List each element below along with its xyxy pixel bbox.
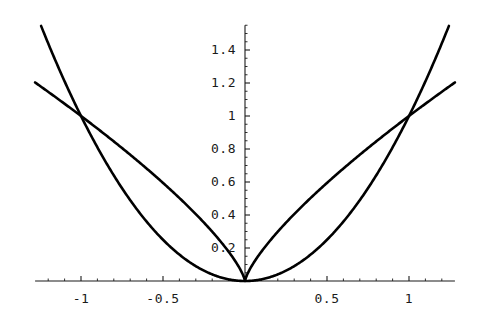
x-axis-tick-label: 0.5 <box>287 292 367 305</box>
axes-group <box>35 25 455 281</box>
y-axis-tick-label: 0.8 <box>211 142 236 155</box>
y-axis-tick-label: 1 <box>228 109 236 122</box>
y-axis-tick-label: 1.4 <box>211 43 236 56</box>
chart-svg-canvas <box>0 0 493 323</box>
y-axis-tick-label: 0.2 <box>211 241 236 254</box>
y-axis-tick-label: 1.2 <box>211 76 236 89</box>
x-axis-tick-label: 1 <box>369 292 449 305</box>
chart-plot-area: 0.20.40.60.811.21.4-1-0.50.51 <box>0 0 493 323</box>
x-axis-tick-label: -1 <box>41 292 121 305</box>
y-axis-tick-label: 0.4 <box>211 208 236 221</box>
y-axis-tick-label: 0.6 <box>211 175 236 188</box>
x-axis-tick-label: -0.5 <box>123 292 203 305</box>
